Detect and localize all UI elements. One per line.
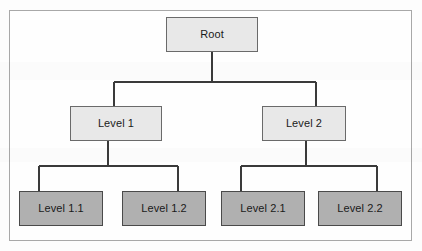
node-label: Level 1.1 xyxy=(38,203,84,214)
node-level-1-2[interactable]: Level 1.2 xyxy=(122,191,206,226)
node-level-2[interactable]: Level 2 xyxy=(262,106,346,141)
diagram-canvas: Root Level 1 Level 2 Level 1.1 Level 1.2… xyxy=(0,0,422,251)
node-root[interactable]: Root xyxy=(166,17,258,52)
node-level-1-1[interactable]: Level 1.1 xyxy=(19,191,103,226)
node-label: Level 2.2 xyxy=(337,203,383,214)
node-label: Level 1.2 xyxy=(141,203,187,214)
node-label: Root xyxy=(200,29,224,40)
node-label: Level 1 xyxy=(98,118,134,129)
node-level-2-1[interactable]: Level 2.1 xyxy=(221,191,305,226)
node-label: Level 2.1 xyxy=(240,203,286,214)
node-label: Level 2 xyxy=(286,118,322,129)
node-level-1[interactable]: Level 1 xyxy=(70,106,162,141)
node-level-2-2[interactable]: Level 2.2 xyxy=(318,191,402,226)
